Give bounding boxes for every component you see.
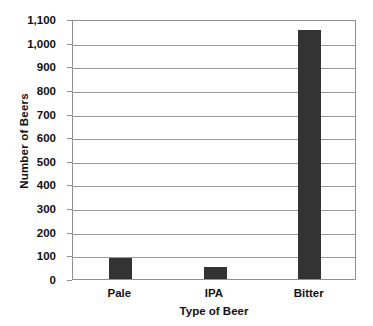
y-axis-title: Number of Beers [10, 0, 38, 282]
bar-bitter [298, 30, 321, 279]
y-axis-tick-mark [67, 280, 72, 281]
y-axis-title-text: Number of Beers [18, 93, 30, 189]
x-axis-category-label: Bitter [261, 285, 356, 301]
plot-area [72, 20, 356, 280]
x-axis-category-label: Pale [72, 285, 167, 301]
x-axis-category-label: IPA [167, 285, 262, 301]
x-axis-title: Type of Beer [72, 305, 356, 317]
bar-chart-figure: Number of Beers 010020030040050060070080… [0, 0, 373, 326]
x-axis-tick-labels: PaleIPABitter [72, 285, 356, 301]
bar-pale [109, 258, 132, 279]
bar-ipa [204, 267, 227, 279]
